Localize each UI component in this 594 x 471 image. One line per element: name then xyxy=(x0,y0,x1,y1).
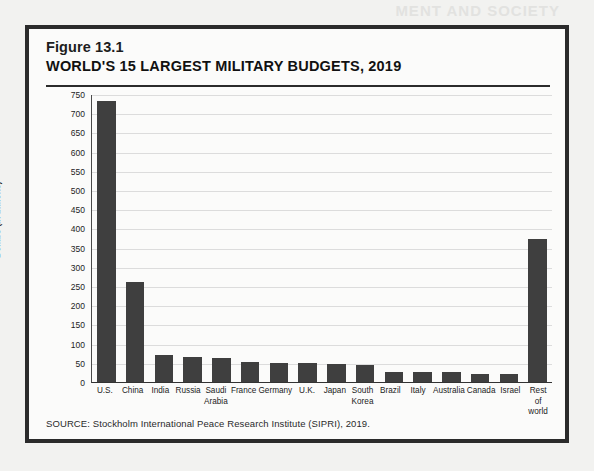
y-tick-label: 400 xyxy=(71,224,85,234)
y-tick-label: 700 xyxy=(71,109,85,119)
bar xyxy=(97,101,115,382)
y-tick-label: 250 xyxy=(71,282,85,292)
bar xyxy=(385,372,403,382)
y-tick-label: 500 xyxy=(71,186,85,196)
x-tick-label: Canada xyxy=(466,386,497,418)
bar xyxy=(327,364,345,382)
x-tick-label: China xyxy=(119,386,147,418)
y-tick-label: 650 xyxy=(71,128,85,138)
bar xyxy=(155,355,173,382)
x-tick-label: Israel xyxy=(496,386,524,418)
bar xyxy=(183,357,201,382)
x-tick-label: Saudi Arabia xyxy=(202,386,230,418)
x-tick-label: Rest of world xyxy=(524,386,552,418)
x-tick-label: India xyxy=(147,386,175,418)
x-tick-label: France xyxy=(230,386,258,418)
bar-slot xyxy=(293,95,322,382)
bar-slot xyxy=(351,95,380,382)
y-tick-label: 550 xyxy=(71,167,85,177)
title-divider xyxy=(46,85,550,87)
figure-title: WORLD'S 15 LARGEST MILITARY BUDGETS, 201… xyxy=(46,58,401,74)
y-tick-label: 0 xyxy=(80,378,85,388)
bar-slot xyxy=(265,95,294,382)
x-axis-labels: U.S.ChinaIndiaRussiaSaudi ArabiaFranceGe… xyxy=(91,386,552,418)
bar xyxy=(126,282,144,382)
bar xyxy=(471,374,489,382)
bar xyxy=(356,365,374,382)
bar-slot xyxy=(178,95,207,382)
bar-slot xyxy=(523,95,552,382)
bar xyxy=(241,362,259,382)
bar-slot xyxy=(495,95,524,382)
y-tick-label: 200 xyxy=(71,301,85,311)
x-tick-label: U.K. xyxy=(293,386,321,418)
bar-slot xyxy=(207,95,236,382)
y-axis-ticks: 7507006506005505004504003503002502001501… xyxy=(58,95,88,383)
bar xyxy=(298,363,316,382)
x-tick-label: U.S. xyxy=(91,386,119,418)
x-tick-label: Brazil xyxy=(376,386,404,418)
y-tick-label: 750 xyxy=(71,90,85,100)
y-tick-label: 600 xyxy=(71,148,85,158)
y-tick-label: 50 xyxy=(76,359,85,369)
x-tick-label: Italy xyxy=(404,386,432,418)
bar-slot xyxy=(236,95,265,382)
y-tick-label: 450 xyxy=(71,205,85,215)
bar xyxy=(528,239,546,382)
bar-slot xyxy=(322,95,351,382)
bar-series xyxy=(92,95,552,382)
bar-slot xyxy=(437,95,466,382)
x-tick-label: South Korea xyxy=(349,386,377,418)
bar-slot xyxy=(150,95,179,382)
bar-slot xyxy=(121,95,150,382)
y-tick-label: 300 xyxy=(71,263,85,273)
bar-slot xyxy=(466,95,495,382)
y-tick-label: 350 xyxy=(71,244,85,254)
bleed-through-text-1: MENT AND SOCIETY xyxy=(395,2,560,19)
x-tick-label: Germany xyxy=(258,386,294,418)
x-tick-label: Russia xyxy=(174,386,202,418)
x-tick-label: Australia xyxy=(432,386,466,418)
bar xyxy=(270,363,288,382)
bar-chart: Dollars (in billions) 750700650600550500… xyxy=(46,95,552,405)
y-tick-label: 100 xyxy=(71,340,85,350)
bar xyxy=(500,374,518,382)
bar-slot xyxy=(380,95,409,382)
x-tick-label: Japan xyxy=(321,386,349,418)
y-tick-label: 150 xyxy=(71,320,85,330)
bar-slot xyxy=(92,95,121,382)
bar xyxy=(442,372,460,382)
bar xyxy=(212,358,230,382)
bar xyxy=(413,372,431,382)
figure-box: Figure 13.1 WORLD'S 15 LARGEST MILITARY … xyxy=(25,25,569,443)
y-axis-label: Dollars (in billions) xyxy=(0,244,2,258)
figure-number: Figure 13.1 xyxy=(46,39,124,55)
bar-slot xyxy=(408,95,437,382)
plot-area xyxy=(91,95,552,383)
source-note: SOURCE: Stockholm International Peace Re… xyxy=(46,418,370,429)
